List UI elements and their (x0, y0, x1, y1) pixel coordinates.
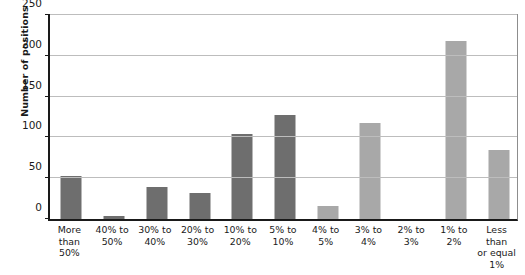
bar-slot (349, 15, 392, 219)
x-axis-label-line: 40% (133, 236, 176, 248)
y-tick-mark-0 (45, 218, 50, 219)
gridline-250 (50, 14, 517, 15)
x-axis-label-line: 30% to (133, 224, 176, 236)
y-tick-mark-150 (45, 96, 50, 97)
bar-slot (477, 15, 520, 219)
x-axis-label: 5% to10% (262, 224, 305, 247)
x-axis-label-line: or equal (475, 247, 518, 259)
x-axis-label: 10% to20% (219, 224, 262, 247)
x-axis-label: Less thanor equal1% (475, 224, 518, 270)
x-axis-label: Morethan50% (48, 224, 91, 259)
plot-area: 050100150200250 (48, 14, 518, 221)
y-tick-label-0: 0 (35, 201, 42, 213)
x-axis-label-line: 1% (475, 259, 518, 271)
bar[interactable] (104, 216, 125, 219)
bar[interactable] (488, 150, 509, 219)
x-axis-label-line: 20% (219, 236, 262, 248)
gridline-50 (50, 177, 517, 178)
y-tick-mark-50 (45, 177, 50, 178)
bar-slot (135, 15, 178, 219)
bar-slot (392, 15, 435, 219)
y-tick-label-250: 250 (22, 0, 42, 9)
bar-slot (435, 15, 478, 219)
bar-slot (178, 15, 221, 219)
bar[interactable] (61, 176, 82, 219)
x-axis-label-line: 10% to (219, 224, 262, 236)
x-axis-label: 1% to2% (433, 224, 476, 247)
x-axis-label-line: 10% (262, 236, 305, 248)
x-axis-label-line: 4% to (304, 224, 347, 236)
x-axis-label: 4% to5% (304, 224, 347, 247)
x-axis-label-line: 2% to (390, 224, 433, 236)
y-tick-mark-200 (45, 55, 50, 56)
x-axis-label-line: 5% to (262, 224, 305, 236)
bar[interactable] (317, 206, 338, 219)
x-axis-label-line: 2% (433, 236, 476, 248)
x-axis-label-line: 50% (91, 236, 134, 248)
bar[interactable] (274, 115, 295, 219)
x-axis-label: 20% to30% (176, 224, 219, 247)
x-axis-label-line: 4% (347, 236, 390, 248)
x-axis-label-line: 1% to (433, 224, 476, 236)
y-tick-mark-100 (45, 136, 50, 137)
x-axis-label-line: than (48, 236, 91, 248)
bar-slot (93, 15, 136, 219)
y-tick-label-100: 100 (22, 119, 42, 131)
x-axis-label-line: 50% (48, 247, 91, 259)
gridline-200 (50, 55, 517, 56)
bar[interactable] (445, 41, 466, 219)
bar[interactable] (146, 187, 167, 219)
x-axis-label: 40% to50% (91, 224, 134, 247)
y-tick-mark-250 (45, 14, 50, 15)
gridline-100 (50, 136, 517, 137)
bottom-faint-text (130, 266, 430, 274)
bar[interactable] (189, 193, 210, 219)
x-axis-label-line: 20% to (176, 224, 219, 236)
y-tick-label-150: 150 (22, 79, 42, 91)
x-axis-label: 3% to4% (347, 224, 390, 247)
bar-slot (221, 15, 264, 219)
x-axis-label: 30% to40% (133, 224, 176, 247)
x-axis-label-line: 5% (304, 236, 347, 248)
bar-slot (50, 15, 93, 219)
bar-slot (306, 15, 349, 219)
x-axis-label-line: 30% (176, 236, 219, 248)
bar-slot (264, 15, 307, 219)
x-axis-label: 2% to3% (390, 224, 433, 247)
gridline-150 (50, 96, 517, 97)
x-axis-label-line: More (48, 224, 91, 236)
y-tick-label-50: 50 (29, 160, 42, 172)
x-axis-label-line: Less than (475, 224, 518, 247)
x-axis-label-line: 3% to (347, 224, 390, 236)
bar-chart: Number of positions 050100150200250 More… (0, 0, 525, 275)
y-tick-label-200: 200 (22, 38, 42, 50)
bars-layer (50, 15, 517, 219)
x-axis-label-line: 3% (390, 236, 433, 248)
x-axis-labels: Morethan50%40% to50%30% to40%20% to30%10… (48, 224, 518, 272)
x-axis-label-line: 40% to (91, 224, 134, 236)
